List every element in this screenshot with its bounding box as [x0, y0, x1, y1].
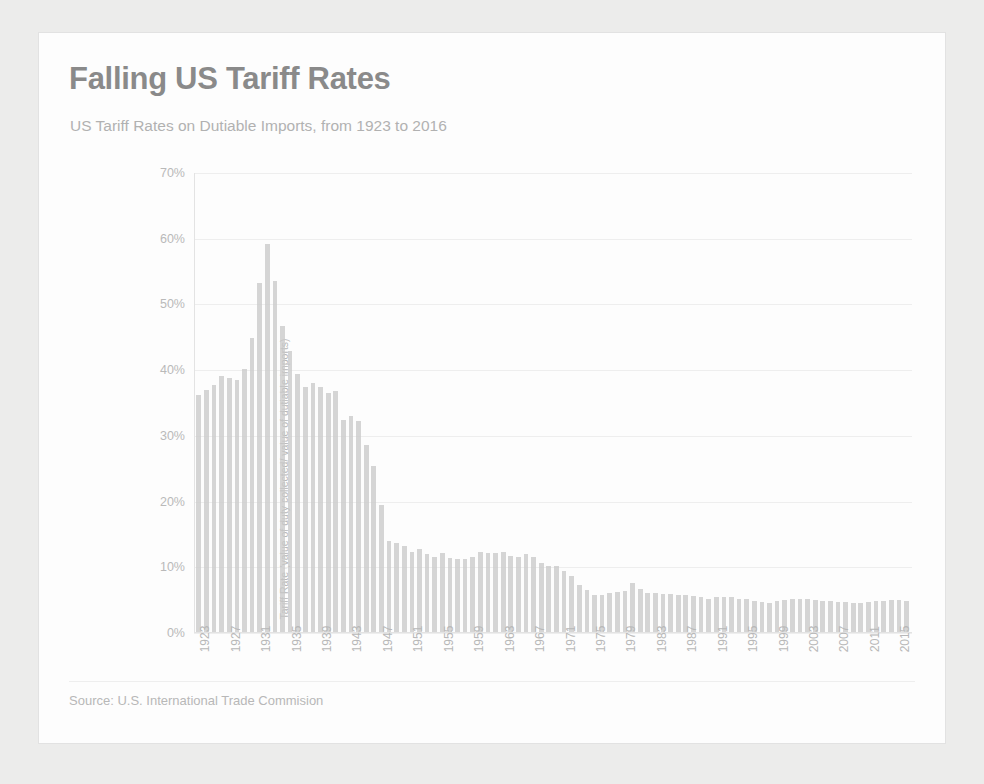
bar[interactable]: [881, 601, 886, 632]
bar-slot[interactable]: [591, 173, 599, 632]
bar[interactable]: [364, 445, 369, 632]
bar-slot[interactable]: [400, 173, 408, 632]
bar-slot[interactable]: [439, 173, 447, 632]
bar[interactable]: [760, 602, 765, 632]
bar[interactable]: [798, 599, 803, 632]
bar-slot[interactable]: [659, 173, 667, 632]
bar-slot[interactable]: [385, 173, 393, 632]
bar-slot[interactable]: [690, 173, 698, 632]
bar-slot[interactable]: [263, 173, 271, 632]
bar[interactable]: [615, 592, 620, 632]
bar-slot[interactable]: [461, 173, 469, 632]
bar-slot[interactable]: [880, 173, 888, 632]
bar-slot[interactable]: [614, 173, 622, 632]
bar-slot[interactable]: [796, 173, 804, 632]
bar[interactable]: [455, 559, 460, 632]
bar[interactable]: [311, 383, 316, 632]
bar-slot[interactable]: [271, 173, 279, 632]
bar-slot[interactable]: [477, 173, 485, 632]
bar[interactable]: [638, 589, 643, 632]
bar[interactable]: [295, 374, 300, 632]
bar[interactable]: [554, 566, 559, 632]
bar-slot[interactable]: [233, 173, 241, 632]
bar-slot[interactable]: [834, 173, 842, 632]
bar[interactable]: [676, 595, 681, 632]
bar[interactable]: [242, 369, 247, 632]
bar-slot[interactable]: [545, 173, 553, 632]
bar[interactable]: [341, 420, 346, 632]
bar[interactable]: [257, 283, 262, 632]
bar-slot[interactable]: [621, 173, 629, 632]
bar-slot[interactable]: [674, 173, 682, 632]
bar[interactable]: [387, 541, 392, 632]
bar-slot[interactable]: [454, 173, 462, 632]
bar[interactable]: [235, 380, 240, 632]
bar[interactable]: [410, 552, 415, 632]
bar-slot[interactable]: [241, 173, 249, 632]
bar[interactable]: [539, 563, 544, 633]
bar[interactable]: [333, 391, 338, 632]
bar-slot[interactable]: [720, 173, 728, 632]
bar[interactable]: [470, 557, 475, 632]
bar[interactable]: [524, 554, 529, 632]
bar[interactable]: [828, 601, 833, 632]
bar-slot[interactable]: [583, 173, 591, 632]
bar[interactable]: [417, 549, 422, 632]
bar[interactable]: [448, 558, 453, 632]
bar-slot[interactable]: [728, 173, 736, 632]
bar[interactable]: [478, 552, 483, 632]
bar[interactable]: [851, 603, 856, 632]
bar-slot[interactable]: [370, 173, 378, 632]
bar[interactable]: [463, 559, 468, 632]
bar[interactable]: [273, 281, 278, 632]
bar[interactable]: [645, 593, 650, 632]
bar[interactable]: [349, 416, 354, 632]
bar-slot[interactable]: [842, 173, 850, 632]
bar-slot[interactable]: [195, 173, 203, 632]
bar-slot[interactable]: [606, 173, 614, 632]
bar-slot[interactable]: [530, 173, 538, 632]
bar[interactable]: [767, 603, 772, 633]
bar-slot[interactable]: [408, 173, 416, 632]
bar-slot[interactable]: [537, 173, 545, 632]
bar[interactable]: [706, 599, 711, 632]
bar-slot[interactable]: [849, 173, 857, 632]
bar[interactable]: [493, 553, 498, 632]
bar[interactable]: [196, 395, 201, 632]
bar-slot[interactable]: [286, 173, 294, 632]
bar[interactable]: [204, 390, 209, 632]
bar-slot[interactable]: [309, 173, 317, 632]
bar-slot[interactable]: [203, 173, 211, 632]
bar-slot[interactable]: [446, 173, 454, 632]
bar-slot[interactable]: [804, 173, 812, 632]
bar[interactable]: [394, 543, 399, 632]
bar-slot[interactable]: [317, 173, 325, 632]
bar-slot[interactable]: [644, 173, 652, 632]
bar-slot[interactable]: [811, 173, 819, 632]
bar-slot[interactable]: [598, 173, 606, 632]
bar-slot[interactable]: [781, 173, 789, 632]
bar-slot[interactable]: [416, 173, 424, 632]
bar[interactable]: [303, 387, 308, 632]
bar-slot[interactable]: [423, 173, 431, 632]
bar-slot[interactable]: [256, 173, 264, 632]
bar-slot[interactable]: [735, 173, 743, 632]
bar-slot[interactable]: [347, 173, 355, 632]
bar[interactable]: [501, 552, 506, 632]
bar[interactable]: [699, 597, 704, 632]
bar-slot[interactable]: [248, 173, 256, 632]
bar-slot[interactable]: [393, 173, 401, 632]
bar-slot[interactable]: [758, 173, 766, 632]
bar[interactable]: [432, 557, 437, 632]
bar-slot[interactable]: [362, 173, 370, 632]
bar-slot[interactable]: [636, 173, 644, 632]
bar-slot[interactable]: [705, 173, 713, 632]
bar-slot[interactable]: [210, 173, 218, 632]
bar-slot[interactable]: [827, 173, 835, 632]
bar[interactable]: [585, 590, 590, 632]
bar-slot[interactable]: [903, 173, 911, 632]
bar-slot[interactable]: [218, 173, 226, 632]
bar-slot[interactable]: [279, 173, 287, 632]
bar-slot[interactable]: [302, 173, 310, 632]
bar-slot[interactable]: [340, 173, 348, 632]
